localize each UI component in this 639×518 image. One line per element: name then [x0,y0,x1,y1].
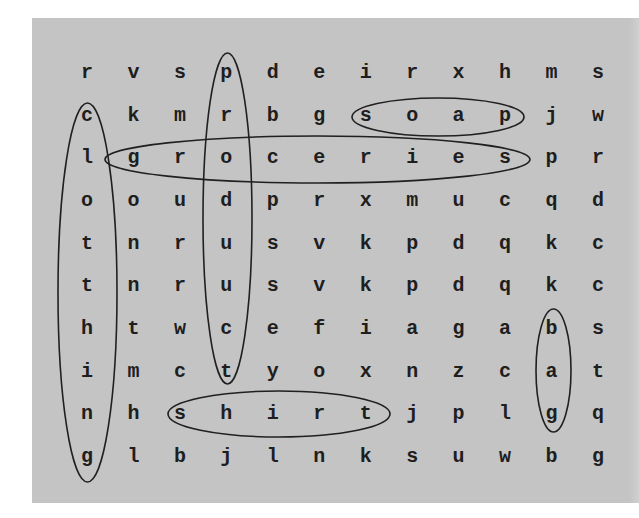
grid-cell[interactable]: g [583,442,613,472]
grid-cell[interactable]: p [490,101,520,131]
grid-cell[interactable]: c [211,314,241,344]
grid-cell[interactable]: h [490,58,520,88]
grid-cell[interactable]: h [211,399,241,429]
grid-cell[interactable]: w [490,442,520,472]
grid-cell[interactable]: c [490,357,520,387]
grid-cell[interactable]: p [444,399,474,429]
grid-cell[interactable]: s [583,58,613,88]
grid-cell[interactable]: s [351,101,381,131]
grid-cell[interactable]: r [165,271,195,301]
grid-cell[interactable]: l [72,143,102,173]
grid-cell[interactable]: n [72,399,102,429]
grid-cell[interactable]: e [444,143,474,173]
grid-cell[interactable]: k [537,229,567,259]
grid-cell[interactable]: r [211,101,241,131]
grid-cell[interactable]: b [537,314,567,344]
grid-cell[interactable]: p [397,229,427,259]
grid-cell[interactable]: a [444,101,474,131]
grid-cell[interactable]: d [211,186,241,216]
grid-cell[interactable]: t [351,399,381,429]
grid-cell[interactable]: v [118,58,148,88]
grid-cell[interactable]: n [397,357,427,387]
grid-cell[interactable]: h [118,399,148,429]
grid-cell[interactable]: e [304,58,334,88]
grid-cell[interactable]: u [165,186,195,216]
grid-cell[interactable]: m [118,357,148,387]
grid-cell[interactable]: k [118,101,148,131]
grid-cell[interactable]: p [211,58,241,88]
grid-cell[interactable]: r [304,399,334,429]
grid-cell[interactable]: g [537,399,567,429]
grid-cell[interactable]: j [397,399,427,429]
grid-cell[interactable]: u [444,186,474,216]
grid-cell[interactable]: s [397,442,427,472]
grid-cell[interactable]: e [258,314,288,344]
grid-cell[interactable]: a [537,357,567,387]
grid-cell[interactable]: q [583,399,613,429]
grid-cell[interactable]: i [72,357,102,387]
grid-cell[interactable]: k [351,229,381,259]
grid-cell[interactable]: i [351,314,381,344]
grid-cell[interactable]: x [351,357,381,387]
grid-cell[interactable]: a [397,314,427,344]
grid-cell[interactable]: d [258,58,288,88]
grid-cell[interactable]: o [304,357,334,387]
grid-cell[interactable]: r [165,229,195,259]
grid-cell[interactable]: c [165,357,195,387]
grid-cell[interactable]: r [351,143,381,173]
grid-cell[interactable]: s [258,271,288,301]
grid-cell[interactable]: g [118,143,148,173]
grid-cell[interactable]: g [444,314,474,344]
grid-cell[interactable]: g [72,442,102,472]
grid-cell[interactable]: r [72,58,102,88]
grid-cell[interactable]: p [397,271,427,301]
grid-cell[interactable]: q [490,271,520,301]
grid-cell[interactable]: k [537,271,567,301]
grid-cell[interactable]: s [258,229,288,259]
grid-cell[interactable]: l [490,399,520,429]
grid-cell[interactable]: b [537,442,567,472]
grid-cell[interactable]: t [72,229,102,259]
grid-cell[interactable]: n [304,442,334,472]
grid-cell[interactable]: i [397,143,427,173]
grid-cell[interactable]: o [72,186,102,216]
grid-cell[interactable]: b [258,101,288,131]
grid-cell[interactable]: s [490,143,520,173]
grid-cell[interactable]: r [397,58,427,88]
grid-cell[interactable]: l [258,442,288,472]
grid-cell[interactable]: t [72,271,102,301]
grid-cell[interactable]: s [165,399,195,429]
grid-cell[interactable]: e [304,143,334,173]
grid-cell[interactable]: i [258,399,288,429]
grid-cell[interactable]: f [304,314,334,344]
grid-cell[interactable]: t [583,357,613,387]
grid-cell[interactable]: h [72,314,102,344]
grid-cell[interactable]: m [397,186,427,216]
grid-cell[interactable]: t [211,357,241,387]
grid-cell[interactable]: k [351,271,381,301]
grid-cell[interactable]: d [444,229,474,259]
grid-cell[interactable]: x [444,58,474,88]
grid-cell[interactable]: a [490,314,520,344]
grid-cell[interactable]: w [583,101,613,131]
grid-cell[interactable]: z [444,357,474,387]
grid-cell[interactable]: y [258,357,288,387]
grid-cell[interactable]: n [118,229,148,259]
grid-cell[interactable]: u [211,271,241,301]
grid-cell[interactable]: c [583,229,613,259]
grid-cell[interactable]: s [165,58,195,88]
grid-cell[interactable]: l [118,442,148,472]
grid-cell[interactable]: j [211,442,241,472]
grid-cell[interactable]: p [258,186,288,216]
grid-cell[interactable]: t [118,314,148,344]
grid-cell[interactable]: g [304,101,334,131]
grid-cell[interactable]: m [165,101,195,131]
grid-cell[interactable]: v [304,271,334,301]
grid-cell[interactable]: b [165,442,195,472]
grid-cell[interactable]: c [583,271,613,301]
grid-cell[interactable]: c [258,143,288,173]
grid-cell[interactable]: u [211,229,241,259]
grid-cell[interactable]: c [490,186,520,216]
grid-cell[interactable]: d [583,186,613,216]
grid-cell[interactable]: p [537,143,567,173]
